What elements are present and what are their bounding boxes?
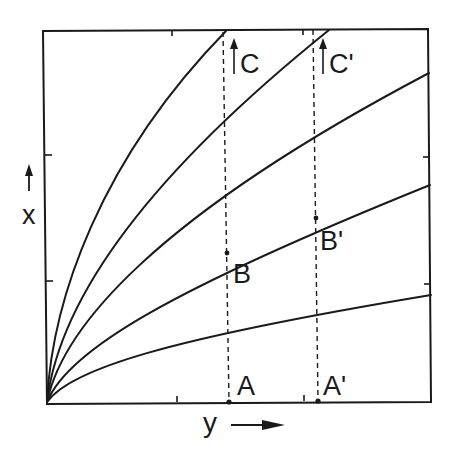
x-label: x (22, 200, 36, 230)
point-A-prime (315, 398, 320, 403)
tick-marks (45, 29, 431, 402)
x-axis-label: x (22, 164, 36, 230)
guide-A (223, 32, 229, 402)
right-arrow-icon (262, 420, 285, 430)
curve-3 (47, 73, 429, 402)
label-C: C (240, 49, 260, 79)
curve-4 (47, 185, 430, 402)
curve-2 (47, 30, 329, 402)
point-B-prime (314, 216, 319, 221)
label-B: B (233, 259, 251, 289)
label-C-prime: C' (329, 49, 354, 79)
up-arrow-icon (25, 164, 33, 176)
up-arrow-icon (230, 38, 238, 49)
guide-A-prime (313, 30, 318, 401)
label-B-prime: B' (320, 226, 343, 256)
up-arrow-icon (319, 38, 327, 49)
point-B (225, 251, 230, 256)
label-A-prime: A' (323, 371, 346, 401)
diagram-figure: C C' B B' A A' x y (0, 0, 454, 457)
y-axis-label: y (203, 407, 285, 438)
point-A (226, 399, 231, 404)
dashed-guides (223, 30, 318, 402)
label-A: A (237, 371, 255, 401)
plot-frame (43, 29, 431, 404)
y-label: y (203, 407, 217, 438)
curves (47, 30, 431, 402)
